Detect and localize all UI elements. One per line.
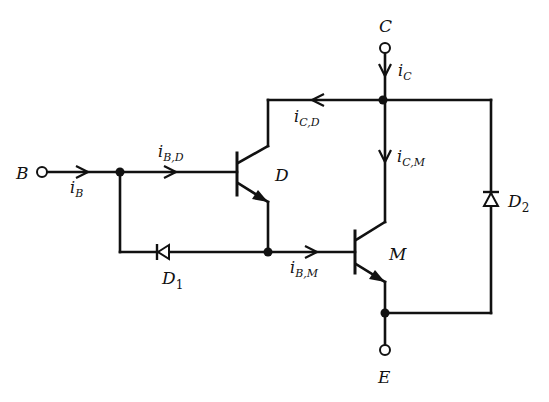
m-collector-lead [356, 222, 385, 240]
current-icd-label: iC,D [294, 107, 320, 129]
m-emitter-arrow-icon [369, 270, 385, 282]
junction-dot [116, 168, 125, 177]
terminal-c [380, 43, 390, 53]
terminal-c-label: C [379, 16, 392, 36]
junction-dot [379, 96, 388, 105]
transistor-m-label: M [388, 244, 407, 264]
current-ic-label: iC [398, 61, 412, 83]
terminal-e-label: E [377, 367, 391, 387]
d-emitter-arrow-icon [252, 190, 268, 202]
transistor-d-label: D [274, 165, 289, 185]
diode-d1-icon [157, 244, 169, 260]
current-ibm-label: iB,M [290, 258, 319, 280]
d-collector-lead [238, 146, 268, 163]
current-ib-label: iB [70, 178, 83, 200]
diode-d1-label: D1 [161, 268, 183, 292]
junction-dot [264, 248, 273, 257]
diode-d2-label: D2 [507, 191, 529, 215]
terminal-b-label: B [15, 163, 29, 183]
circuit-svg: B C E D M D1 D2 iB iB,D iC,D iC iC,M iB,… [0, 0, 549, 402]
junction-dot [381, 309, 390, 318]
terminal-b [37, 167, 47, 177]
circuit-diagram: B C E D M D1 D2 iB iB,D iC,D iC iC,M iB,… [0, 0, 549, 402]
terminal-e [380, 345, 390, 355]
current-icm-label: iC,M [397, 147, 426, 169]
current-ibd-label: iB,D [158, 142, 184, 164]
diode-d2-icon [483, 192, 499, 206]
